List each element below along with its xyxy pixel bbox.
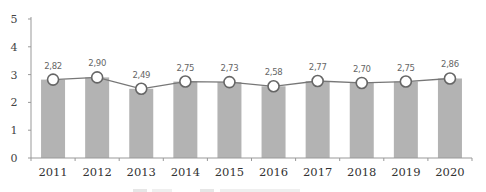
data-point-marker — [312, 75, 323, 86]
bar — [41, 80, 65, 158]
x-tick-label: 2018 — [347, 165, 376, 179]
x-axis: 2011201220132014201520162017201820192020 — [31, 158, 472, 179]
x-tick-label: 2013 — [127, 165, 156, 179]
data-point-marker — [400, 76, 411, 87]
legend-swatch-bar — [133, 189, 147, 192]
legend-label-line — [220, 189, 300, 192]
data-label: 2,75 — [176, 63, 194, 73]
data-label: 2,58 — [265, 67, 283, 77]
data-point-marker — [224, 77, 235, 88]
x-tick-label: 2020 — [435, 165, 464, 179]
y-tick-label: 5 — [11, 13, 18, 26]
bar — [438, 78, 462, 158]
bar — [306, 81, 330, 158]
x-tick-label: 2014 — [171, 165, 200, 179]
data-label: 2,86 — [441, 59, 459, 69]
y-tick-label: 1 — [11, 124, 18, 137]
y-axis: 012345 — [11, 13, 32, 165]
x-tick-label: 2017 — [303, 165, 332, 179]
data-point-marker — [356, 77, 367, 88]
data-label: 2,49 — [132, 70, 150, 80]
data-point-marker — [180, 76, 191, 87]
y-tick-label: 2 — [11, 96, 18, 109]
x-tick-label: 2011 — [38, 165, 67, 179]
y-tick-label: 4 — [11, 41, 18, 54]
data-label: 2,77 — [309, 62, 327, 72]
y-tick-label: 0 — [11, 152, 18, 165]
y-tick-label: 3 — [11, 69, 18, 82]
legend — [133, 189, 300, 192]
bar — [85, 77, 109, 158]
data-label: 2,82 — [44, 61, 62, 71]
legend-swatch-line — [200, 189, 214, 192]
legend-label-bar — [152, 189, 172, 192]
trend-line — [53, 77, 450, 88]
data-point-marker — [136, 83, 147, 94]
bar — [129, 89, 153, 158]
x-tick-label: 2019 — [391, 165, 420, 179]
bar — [173, 82, 197, 158]
data-label: 2,90 — [88, 58, 106, 68]
data-label: 2,75 — [397, 63, 415, 73]
bar — [350, 83, 374, 158]
bar — [394, 82, 418, 158]
bar-line-chart: 012345 2,822,902,492,752,732,582,772,702… — [0, 0, 486, 192]
data-point-marker — [268, 81, 279, 92]
data-point-marker — [444, 73, 455, 84]
data-label: 2,73 — [221, 63, 239, 73]
bar-series — [41, 77, 462, 158]
data-label: 2,70 — [353, 64, 371, 74]
data-point-marker — [48, 74, 59, 85]
x-tick-label: 2012 — [83, 165, 112, 179]
x-tick-label: 2016 — [259, 165, 288, 179]
data-point-marker — [92, 72, 103, 83]
x-tick-label: 2015 — [215, 165, 244, 179]
bar — [217, 82, 241, 158]
bar — [262, 86, 286, 158]
